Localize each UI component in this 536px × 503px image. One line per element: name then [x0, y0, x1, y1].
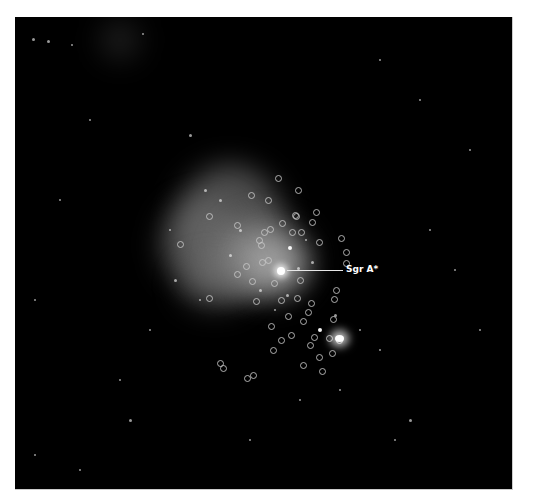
star [379, 59, 381, 61]
source-circle-marker [217, 360, 224, 367]
source-circle-marker [309, 219, 316, 226]
star [318, 328, 322, 332]
source-circle-marker [298, 229, 305, 236]
source-circle-marker [261, 229, 268, 236]
source-circle-marker [206, 295, 213, 302]
star [288, 246, 292, 250]
source-circle-marker [329, 350, 336, 357]
star [359, 329, 361, 331]
source-circle-marker [265, 197, 272, 204]
source-circle-marker [297, 277, 304, 284]
star [311, 261, 314, 264]
source-circle-marker [234, 222, 241, 229]
star [286, 294, 289, 297]
source-circle-marker [243, 263, 250, 270]
star [174, 279, 177, 282]
star [89, 119, 91, 121]
source-circle-marker [343, 249, 350, 256]
source-circle-marker [326, 335, 333, 342]
star [305, 239, 307, 241]
star [219, 199, 222, 202]
star [259, 289, 262, 292]
star [469, 149, 471, 151]
source-circle-marker [265, 257, 272, 264]
star [79, 469, 81, 471]
star [142, 33, 144, 35]
star [34, 299, 36, 301]
star [379, 349, 381, 351]
star [299, 399, 301, 401]
star [189, 134, 192, 137]
source-circle-marker [338, 235, 345, 242]
source-circle-marker [278, 297, 285, 304]
sgr-a-star-source [277, 267, 285, 275]
source-circle-marker [259, 259, 266, 266]
star [274, 309, 276, 311]
star [249, 439, 251, 441]
source-circle-marker [295, 187, 302, 194]
source-circle-marker [319, 368, 326, 375]
star [419, 99, 421, 101]
star [394, 439, 396, 441]
star [32, 38, 35, 41]
source-circle-marker [253, 298, 260, 305]
source-circle-marker [248, 192, 255, 199]
astronomy-image: Sgr A* [15, 17, 513, 490]
nebula-cloud [100, 20, 140, 60]
source-circle-marker [268, 323, 275, 330]
star [129, 419, 132, 422]
star [229, 254, 232, 257]
star [339, 389, 341, 391]
source-circle-marker [300, 318, 307, 325]
nebula-cloud [180, 260, 250, 310]
source-circle-marker [331, 296, 338, 303]
source-circle-marker [305, 309, 312, 316]
star [59, 199, 61, 201]
source-circle-marker [285, 313, 292, 320]
star [34, 454, 36, 456]
source-circle-marker [279, 220, 286, 227]
source-circle-marker [271, 280, 278, 287]
source-circle-marker [316, 354, 323, 361]
star [169, 229, 171, 231]
star [454, 269, 456, 271]
source-circle-marker [300, 362, 307, 369]
source-circle-marker [250, 372, 257, 379]
star [429, 229, 431, 231]
star [47, 40, 50, 43]
source-circle-marker [249, 278, 256, 285]
star [71, 44, 73, 46]
source-circle-marker [333, 287, 340, 294]
source-circle-marker [293, 213, 300, 220]
star [119, 379, 121, 381]
source-circle-marker [311, 334, 318, 341]
source-circle-marker [288, 332, 295, 339]
source-circle-marker [206, 213, 213, 220]
source-circle-marker [275, 175, 282, 182]
sgr-a-star-label: Sgr A* [346, 264, 378, 274]
source-circle-marker [278, 337, 285, 344]
source-circle-marker [330, 316, 337, 323]
source-circle-marker [177, 241, 184, 248]
source-circle-marker [270, 347, 277, 354]
source-circle-marker [316, 239, 323, 246]
bright-x-ray-source [335, 335, 344, 342]
source-circle-marker [258, 242, 265, 249]
star [149, 329, 151, 331]
source-circle-marker [234, 271, 241, 278]
star [199, 299, 201, 301]
source-circle-marker [308, 300, 315, 307]
star [204, 189, 207, 192]
source-circle-marker [289, 229, 296, 236]
star [409, 419, 412, 422]
source-circle-marker [307, 342, 314, 349]
star [479, 329, 481, 331]
source-circle-marker [294, 295, 301, 302]
source-circle-marker [267, 226, 274, 233]
source-circle-marker [313, 209, 320, 216]
star [239, 229, 242, 232]
label-pointer-line [287, 270, 343, 271]
